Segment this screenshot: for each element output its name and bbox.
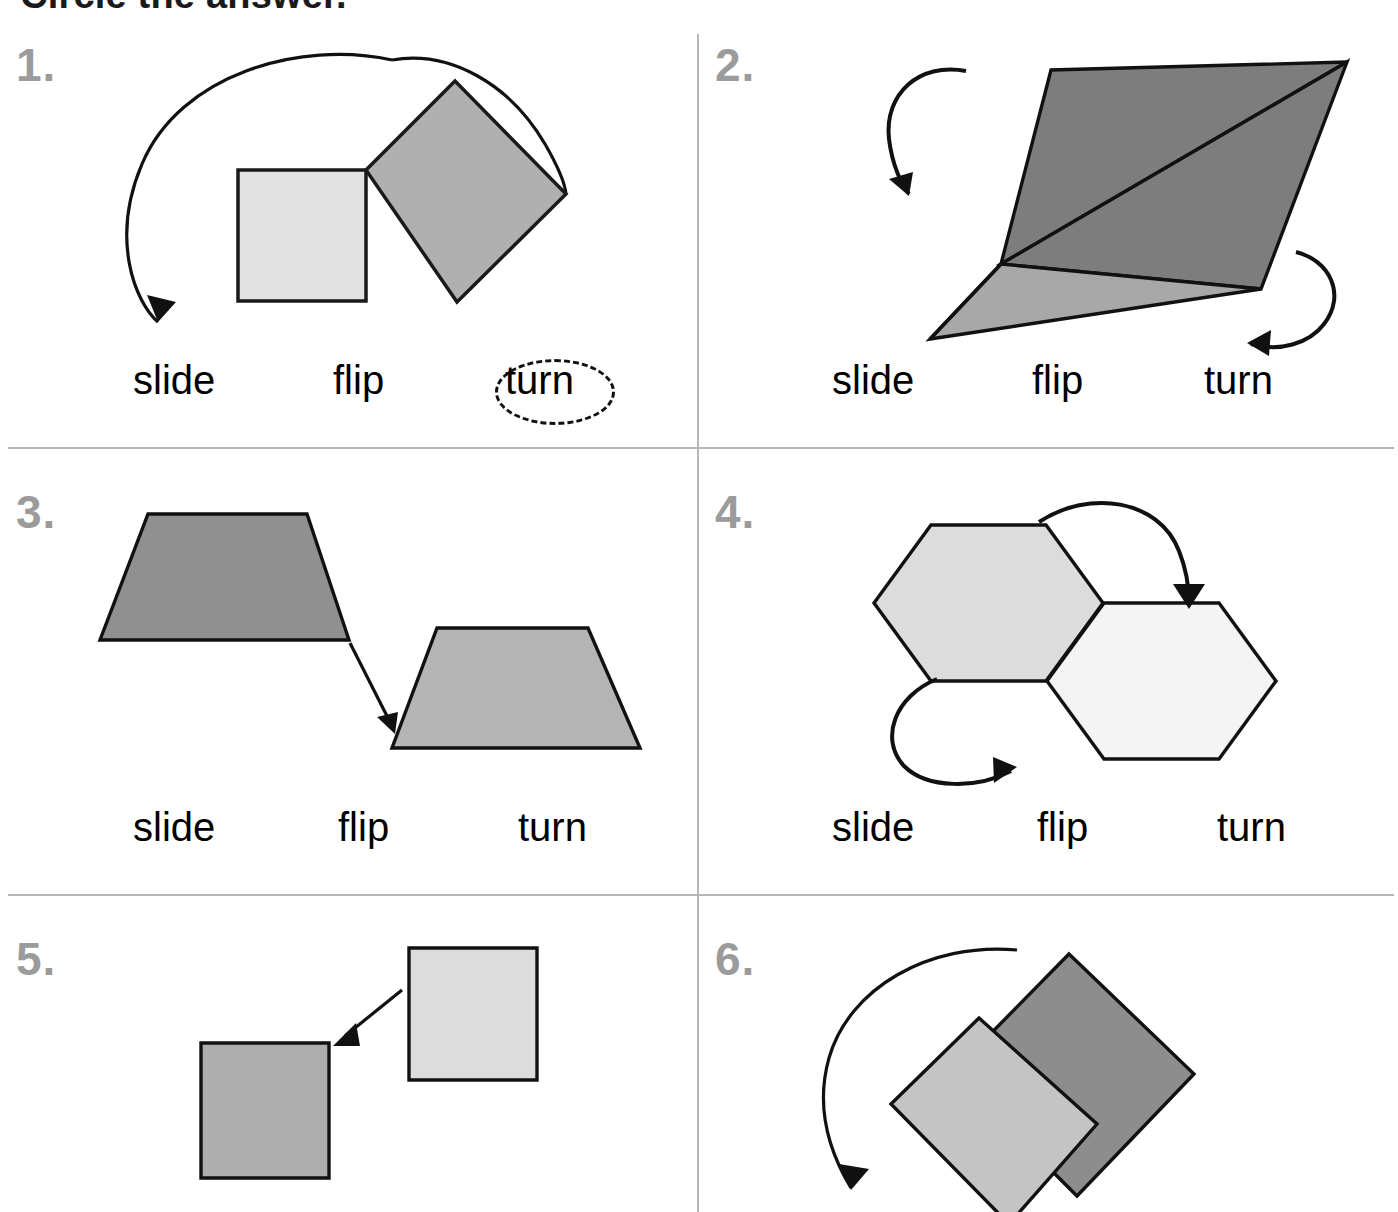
problem-4: 4. slide flip turn — [699, 481, 1396, 928]
medium-square — [201, 1043, 329, 1178]
worksheet-page: Circle the answer. 1. slide flip turn — [0, 0, 1398, 1212]
problem-3-figure — [0, 481, 697, 811]
choice-turn[interactable]: turn — [518, 803, 587, 851]
turn-arrow-head — [147, 295, 176, 322]
problem-6-figure — [699, 928, 1396, 1212]
problem-2: 2. slide flip turn — [699, 34, 1396, 481]
slide-arrow-head — [377, 712, 398, 734]
slide-arrow-head — [333, 1023, 360, 1046]
choice-slide[interactable]: slide — [832, 803, 914, 851]
slide-arrow-line — [350, 643, 392, 726]
problem-3: 3. slide flip turn — [0, 481, 697, 928]
problem-4-figure — [699, 481, 1396, 811]
problem-1-figure — [0, 34, 697, 364]
dark-trapezoid — [100, 514, 349, 640]
choice-flip[interactable]: flip — [1037, 803, 1088, 851]
problem-2-figure — [699, 34, 1396, 364]
problem-1-choices: slide flip turn — [0, 356, 697, 426]
choice-turn[interactable]: turn — [505, 356, 574, 404]
problem-2-choices: slide flip turn — [699, 356, 1396, 426]
flip-arrow-bottom-path — [892, 679, 1011, 784]
choice-slide[interactable]: slide — [133, 803, 215, 851]
flip-arrow-top-path — [889, 69, 966, 194]
problem-5: 5. — [0, 928, 697, 1212]
flip-arrow-bottom-head — [993, 757, 1017, 783]
flip-arrow-bottom-head — [1247, 330, 1271, 356]
choice-turn[interactable]: turn — [1204, 356, 1273, 404]
choice-flip[interactable]: flip — [338, 803, 389, 851]
choice-slide[interactable]: slide — [832, 356, 914, 404]
light-square — [238, 170, 366, 301]
problem-5-figure — [0, 928, 697, 1212]
light-square — [409, 948, 537, 1080]
problem-3-choices: slide flip turn — [0, 803, 697, 873]
light-trapezoid — [392, 628, 640, 748]
choice-slide[interactable]: slide — [133, 356, 215, 404]
page-title: Circle the answer. — [20, 0, 347, 17]
problem-4-choices: slide flip turn — [699, 803, 1396, 873]
choice-flip[interactable]: flip — [333, 356, 384, 404]
gray-diamond — [366, 81, 566, 302]
problem-1: 1. slide flip turn — [0, 34, 697, 481]
choice-turn[interactable]: turn — [1217, 803, 1286, 851]
choice-flip[interactable]: flip — [1032, 356, 1083, 404]
problem-6: 6. — [699, 928, 1396, 1212]
flip-arrow-top-head — [889, 172, 913, 196]
